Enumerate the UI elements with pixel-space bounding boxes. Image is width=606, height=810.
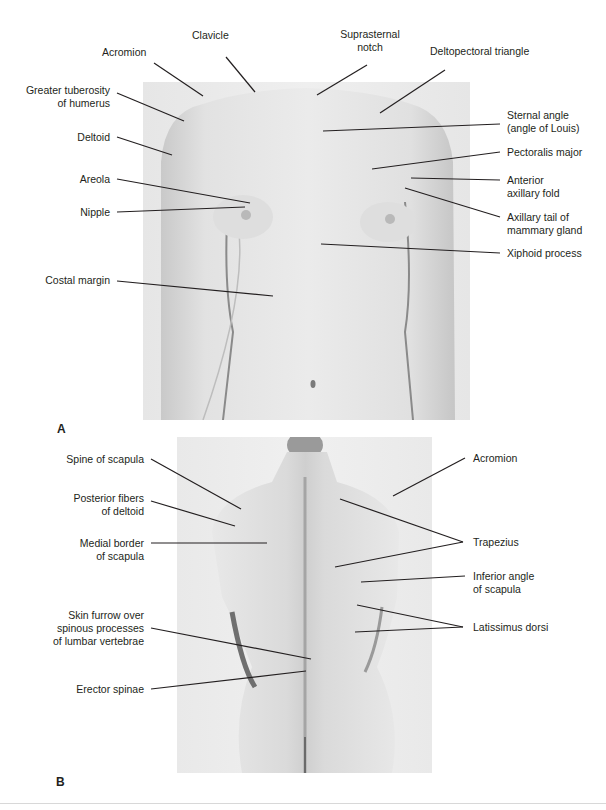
panel-letter-a: A <box>57 422 66 436</box>
label-spine-of-scapula: Spine of scapula <box>10 453 144 466</box>
label-nipple: Nipple <box>2 206 110 219</box>
label-clavicle: Clavicle <box>192 29 229 42</box>
anterior-torso-photo <box>143 82 470 420</box>
label-greater-tuberosity-line2: of humerus <box>2 97 110 110</box>
label-erector-spinae: Erector spinae <box>10 683 144 696</box>
label-medial-border-line2: of scapula <box>10 550 144 563</box>
label-skin-furrow-line1: Skin furrow over <box>10 609 144 622</box>
label-anterior-axillary-fold: Anterior axillary fold <box>507 174 560 200</box>
label-greater-tuberosity: Greater tuberosity of humerus <box>2 84 110 110</box>
label-posterior-deltoid-line1: Posterior fibers <box>10 492 144 505</box>
label-inferior-angle-line2: of scapula <box>473 583 534 596</box>
label-axillary-tail-line2: mammary gland <box>507 224 582 237</box>
label-medial-border-line1: Medial border <box>10 537 144 550</box>
label-suprasternal-notch-line1: Suprasternal <box>335 28 405 41</box>
label-areola: Areola <box>2 173 110 186</box>
anterior-torso-silhouette <box>143 82 470 420</box>
label-acromion-posterior: Acromion <box>473 452 517 465</box>
label-medial-border-scapula: Medial border of scapula <box>10 537 144 563</box>
label-sternal-angle: Sternal angle (angle of Louis) <box>507 109 579 135</box>
label-suprasternal-notch-line2: notch <box>335 41 405 54</box>
posterior-torso-photo <box>177 437 432 773</box>
label-inferior-angle-scapula: Inferior angle of scapula <box>473 570 534 596</box>
label-posterior-deltoid-line2: of deltoid <box>10 505 144 518</box>
label-latissimus-dorsi: Latissimus dorsi <box>473 621 548 634</box>
label-deltopectoral-triangle: Deltopectoral triangle <box>430 45 529 58</box>
label-posterior-fibers-deltoid: Posterior fibers of deltoid <box>10 492 144 518</box>
label-acromion-anterior: Acromion <box>102 46 146 59</box>
label-greater-tuberosity-line1: Greater tuberosity <box>2 84 110 97</box>
label-skin-furrow-line3: of lumbar vertebrae <box>10 635 144 648</box>
label-deltoid: Deltoid <box>2 131 110 144</box>
label-xiphoid-process: Xiphoid process <box>507 247 582 260</box>
label-trapezius: Trapezius <box>473 536 519 549</box>
label-anterior-axillary-fold-line1: Anterior <box>507 174 560 187</box>
label-anterior-axillary-fold-line2: axillary fold <box>507 187 560 200</box>
posterior-torso-silhouette <box>177 437 432 773</box>
label-axillary-tail-line1: Axillary tail of <box>507 211 582 224</box>
label-suprasternal-notch: Suprasternal notch <box>335 28 405 54</box>
label-sternal-angle-line2: (angle of Louis) <box>507 122 579 135</box>
label-skin-furrow-line2: spinous processes <box>10 622 144 635</box>
page-separator <box>0 803 606 804</box>
label-inferior-angle-line1: Inferior angle <box>473 570 534 583</box>
label-skin-furrow: Skin furrow over spinous processes of lu… <box>10 609 144 648</box>
label-sternal-angle-line1: Sternal angle <box>507 109 579 122</box>
label-axillary-tail: Axillary tail of mammary gland <box>507 211 582 237</box>
label-costal-margin: Costal margin <box>2 274 110 287</box>
label-pectoralis-major: Pectoralis major <box>507 146 582 159</box>
panel-letter-b: B <box>56 775 65 789</box>
